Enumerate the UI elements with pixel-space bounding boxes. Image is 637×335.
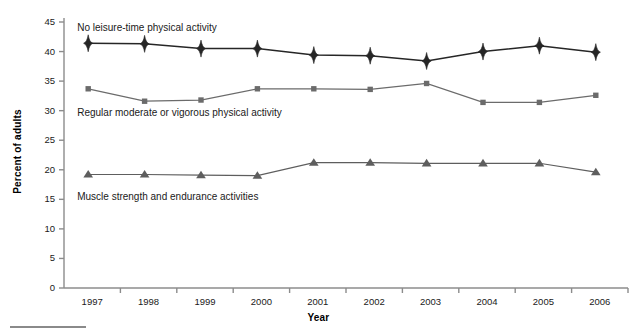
series-label-muscle-strength: Muscle strength and endurance activities [77,191,258,202]
x-tick-label: 2004 [462,296,512,307]
x-tick-label: 2001 [293,296,343,307]
data-point-triangle [478,159,488,167]
data-point-diamond [366,47,375,64]
y-tick-label: 15 [31,193,55,204]
data-point-square [537,100,542,105]
data-point-diamond [535,37,544,54]
x-tick-label: 2006 [575,296,625,307]
y-tick-label: 45 [31,16,55,27]
series-line [88,83,596,102]
data-point-triangle [196,171,206,179]
data-point-diamond [309,47,318,64]
x-tick-label: 1998 [124,296,174,307]
series-line [88,163,596,176]
data-point-triangle [83,170,93,178]
data-point-diamond [591,44,600,61]
data-point-square [593,93,598,98]
data-point-square [368,87,373,92]
bottom-rule-divider [10,326,86,328]
data-point-square [424,81,429,86]
y-tick-label: 20 [31,164,55,175]
data-point-square [311,86,316,91]
data-point-square [142,99,147,104]
x-tick-label: 2005 [518,296,568,307]
series-1 [84,35,601,70]
line-chart-plot [0,0,637,335]
series-3 [83,158,600,179]
data-point-triangle [365,158,375,166]
chart-figure: Percent of adults Year 05101520253035404… [0,0,637,335]
data-point-square [480,100,485,105]
series-label-no-leisure: No leisure-time physical activity [77,22,217,33]
data-point-square [255,86,260,91]
y-tick-label: 5 [31,252,55,263]
data-point-square [86,86,91,91]
data-point-diamond [478,43,487,60]
x-tick-label: 1997 [67,296,117,307]
x-axis-title: Year [0,312,637,323]
x-tick-label: 2003 [406,296,456,307]
data-point-diamond [140,35,149,52]
x-tick-label: 2002 [349,296,399,307]
series-2 [86,81,599,105]
y-tick-label: 35 [31,75,55,86]
y-tick-label: 0 [31,282,55,293]
axis-lines [64,18,628,288]
y-tick-label: 25 [31,134,55,145]
x-tick-label: 2000 [236,296,286,307]
data-point-diamond [253,40,262,57]
data-point-diamond [422,53,431,70]
data-point-triangle [535,159,545,167]
data-point-diamond [84,35,93,52]
y-tick-label: 10 [31,223,55,234]
data-point-square [198,97,203,102]
data-point-triangle [309,158,319,166]
data-point-triangle [422,159,432,167]
data-point-diamond [196,40,205,57]
series-label-regular-moderate: Regular moderate or vigorous physical ac… [77,107,282,118]
y-tick-label: 40 [31,46,55,57]
y-axis-title: Percent of adults [12,97,23,207]
axis-ticks [59,22,628,293]
y-tick-label: 30 [31,105,55,116]
series-line [88,43,596,61]
data-point-triangle [140,170,150,178]
x-tick-label: 1999 [180,296,230,307]
